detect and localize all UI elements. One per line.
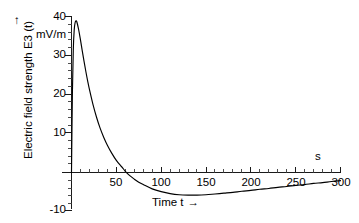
chart-figure: 40 30 20 10 -10 mV/m Electric field stre… — [0, 0, 359, 223]
y-tick-label-40: 40 — [44, 10, 66, 22]
y-tick-label-20: 20 — [44, 87, 66, 99]
x-axis-unit-label: s — [315, 150, 321, 162]
y-axis-unit-label: mV/m — [36, 28, 66, 40]
x-tick-label-200: 200 — [236, 176, 266, 188]
y-axis-major-ticks — [65, 17, 72, 211]
x-tick-label-250: 250 — [281, 176, 311, 188]
x-axis-title: Time t→ — [152, 196, 199, 208]
y-tick-label-minus-10: -10 — [38, 203, 66, 215]
x-tick-label-300: 300 — [326, 176, 356, 188]
y-axis-title: Electric field strength E3 (t) — [22, 5, 34, 175]
x-axis-major-ticks — [116, 167, 340, 173]
x-axis-arrow-icon: → — [184, 196, 200, 208]
x-tick-label-100: 100 — [146, 176, 176, 188]
x-axis-title-text: Time t — [152, 196, 184, 208]
x-tick-label-50: 50 — [102, 176, 130, 188]
y-axis-arrow-icon: ↑ — [14, 14, 20, 26]
y-tick-label-10: 10 — [44, 126, 66, 138]
x-tick-label-150: 150 — [191, 176, 221, 188]
y-axis-minor-ticks — [68, 24, 72, 203]
y-tick-label-30: 30 — [44, 48, 66, 60]
